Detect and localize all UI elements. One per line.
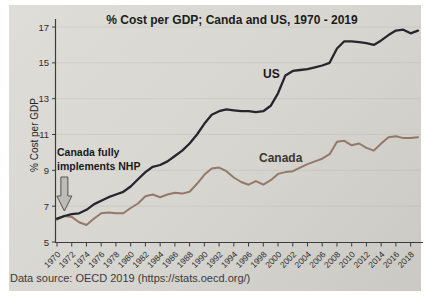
chart-title: % Cost per GDP; Canda and US, 1970 - 201…: [57, 13, 407, 27]
y-axis-title: % Cost per GDP: [29, 75, 43, 195]
series-line-us: [57, 30, 418, 219]
series-label-us: US: [263, 67, 280, 81]
scanned-chart-page: 5791113151719701972197419761978198019821…: [0, 0, 427, 303]
y-tick-label: 7: [44, 201, 49, 212]
y-tick-label: 9: [44, 165, 49, 176]
series-label-canada: Canada: [259, 151, 302, 165]
annotation-line-2: implements NHP: [57, 159, 140, 173]
y-tick-label: 5: [44, 237, 49, 248]
data-source-note: Data source: OECD 2019 (https://stats.oe…: [10, 272, 250, 284]
y-tick-label: 17: [38, 22, 49, 33]
y-tick-label: 15: [38, 57, 49, 68]
x-tick-label: 2018: [396, 249, 417, 270]
annotation-text: Canada fully implements NHP: [57, 145, 140, 173]
annotation-line-1: Canada fully: [57, 145, 140, 159]
